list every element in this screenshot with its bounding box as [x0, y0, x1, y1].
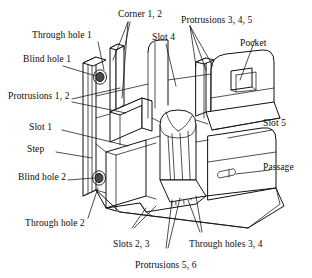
cylinder-boss-body	[160, 110, 196, 180]
passage-opening	[218, 169, 236, 178]
label-protrusions-3-4-5: Protrusions 3, 4, 5	[181, 16, 252, 26]
slots-2-3-notch-b	[140, 203, 146, 212]
label-through-hole-2: Through hole 2	[25, 219, 85, 229]
label-through-holes-3-4: Through holes 3, 4	[189, 240, 263, 250]
leader-protrusion-6	[168, 198, 180, 248]
pocket-floor-edge	[231, 90, 236, 92]
label-through-hole-1: Through hole 1	[32, 31, 92, 41]
body-reference-line-6	[96, 144, 106, 152]
body-reference-line-4	[152, 118, 160, 122]
base-right-corner	[248, 188, 280, 228]
engineering-drawing-figure: Corner 1, 2 Through hole 1 Protrusions 3…	[0, 0, 312, 278]
label-blind-hole-1: Blind hole 1	[23, 55, 71, 65]
label-slot-5: Slot 5	[263, 119, 286, 129]
right-lower-block-band	[208, 152, 276, 162]
label-slot-4: Slot 4	[152, 33, 175, 43]
protrusion-2-side	[142, 98, 152, 131]
right-top-block-band	[211, 88, 274, 98]
label-pocket: Pocket	[240, 39, 266, 49]
label-passage: Passage	[263, 163, 294, 173]
slot-4-outer-profile	[148, 40, 168, 105]
base-front-edge	[120, 212, 248, 228]
body-reference-line-8	[196, 140, 208, 142]
label-corner-1-2: Corner 1, 2	[118, 10, 162, 20]
label-protrusions-1-2: Protrusions 1, 2	[8, 92, 70, 102]
leader-protrusion-5b	[166, 200, 172, 248]
center-lower-block	[160, 180, 206, 202]
left-end-plate-face	[83, 57, 96, 196]
leader-protrusion-4	[190, 26, 206, 70]
leader-protrusion-3	[190, 26, 196, 66]
body-reference-line-3	[96, 114, 110, 118]
slot-1-inner-bottom	[146, 196, 156, 199]
slot-1-recess	[106, 140, 146, 208]
body-reference-line-5	[196, 120, 208, 124]
leader-slot-5	[228, 130, 272, 138]
body-reference-line-7	[146, 136, 160, 140]
pocket-opening	[231, 68, 252, 90]
label-step: Step	[27, 145, 44, 155]
part-geometry	[83, 40, 284, 228]
blind-hole-2-bore	[95, 173, 103, 182]
corner-fin-2	[116, 46, 124, 110]
label-slots-2-3: Slots 2, 3	[113, 240, 150, 250]
leader-through-hole-1	[98, 42, 104, 70]
label-blind-hole-2: Blind hole 2	[18, 173, 66, 183]
label-protrusions-5-6: Protrusions 5, 6	[135, 261, 197, 271]
blind-hole-1-bore	[96, 72, 104, 81]
label-slot-1: Slot 1	[29, 123, 52, 133]
